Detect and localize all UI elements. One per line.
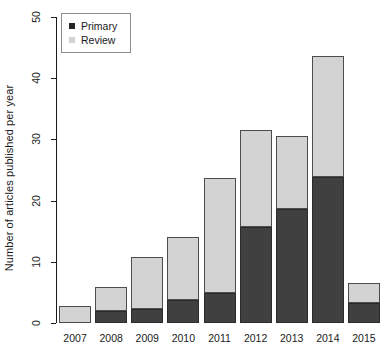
y-tick-label-0: 0 xyxy=(30,312,44,334)
x-axis-label-2015: 2015 xyxy=(344,332,384,344)
bar-segment-primary-2012[interactable] xyxy=(240,227,272,323)
bar-2007[interactable] xyxy=(59,306,91,323)
bar-segment-primary-2015[interactable] xyxy=(348,303,380,323)
y-tick-40 xyxy=(51,78,56,79)
x-axis-label-2014: 2014 xyxy=(308,332,348,344)
x-axis-label-2009: 2009 xyxy=(127,332,167,344)
bar-2015[interactable] xyxy=(348,283,380,323)
review-swatch-icon xyxy=(69,37,75,43)
bar-segment-review-2012[interactable] xyxy=(240,130,272,227)
bar-2013[interactable] xyxy=(276,136,308,323)
legend: Primary Review xyxy=(61,13,131,53)
y-tick-label-30: 30 xyxy=(30,128,44,150)
x-axis-label-2008: 2008 xyxy=(91,332,131,344)
y-tick-0 xyxy=(51,323,56,324)
y-tick-label-10: 10 xyxy=(30,251,44,273)
y-tick-label-40: 40 xyxy=(30,67,44,89)
bar-2008[interactable] xyxy=(95,287,127,323)
bar-segment-review-2008[interactable] xyxy=(95,287,127,311)
bar-segment-primary-2009[interactable] xyxy=(131,309,163,323)
legend-item-primary[interactable]: Primary xyxy=(67,19,124,33)
legend-label-review: Review xyxy=(81,34,115,46)
y-tick-label-50: 50 xyxy=(30,6,44,28)
bar-2012[interactable] xyxy=(240,130,272,323)
legend-item-review[interactable]: Review xyxy=(67,33,124,47)
bar-2011[interactable] xyxy=(204,178,236,323)
x-axis-label-2013: 2013 xyxy=(272,332,312,344)
bar-segment-primary-2010[interactable] xyxy=(167,300,199,323)
bar-segment-review-2014[interactable] xyxy=(312,56,344,177)
plot-area xyxy=(57,17,382,323)
bar-segment-review-2010[interactable] xyxy=(167,237,199,300)
bar-segment-primary-2011[interactable] xyxy=(204,293,236,323)
legend-label-primary: Primary xyxy=(81,20,117,32)
stacked-bar-chart: Number of articles published per year 01… xyxy=(0,0,390,356)
x-axis-label-2011: 2011 xyxy=(200,332,240,344)
bar-segment-review-2007[interactable] xyxy=(59,306,91,323)
bar-segment-review-2011[interactable] xyxy=(204,178,236,293)
x-axis-label-2007: 2007 xyxy=(55,332,95,344)
y-tick-50 xyxy=(51,17,56,18)
x-axis-label-2012: 2012 xyxy=(236,332,276,344)
bar-2010[interactable] xyxy=(167,237,199,323)
bar-segment-review-2013[interactable] xyxy=(276,136,308,209)
primary-swatch-icon xyxy=(69,23,75,29)
bar-segment-primary-2008[interactable] xyxy=(95,311,127,323)
y-axis-title: Number of articles published per year xyxy=(0,0,18,356)
y-tick-30 xyxy=(51,139,56,140)
bar-segment-primary-2013[interactable] xyxy=(276,209,308,323)
bar-segment-review-2015[interactable] xyxy=(348,283,380,303)
bar-2009[interactable] xyxy=(131,257,163,323)
y-tick-20 xyxy=(51,201,56,202)
bar-2014[interactable] xyxy=(312,56,344,323)
x-axis-label-2010: 2010 xyxy=(163,332,203,344)
y-tick-label-20: 20 xyxy=(30,190,44,212)
bar-segment-review-2009[interactable] xyxy=(131,257,163,309)
bar-segment-primary-2014[interactable] xyxy=(312,177,344,323)
y-tick-10 xyxy=(51,262,56,263)
